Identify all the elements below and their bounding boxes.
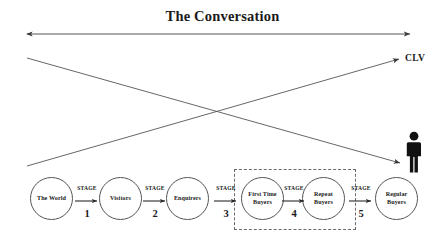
- node-regular-buyers[interactable]: Regular Buyers: [375, 177, 418, 220]
- page-title: The Conversation: [0, 8, 445, 25]
- stage-number: 5: [344, 208, 378, 219]
- stage-4: STAGE 4: [277, 185, 311, 219]
- node-visitors[interactable]: Visitors: [99, 177, 142, 220]
- node-label: First Time Buyers: [247, 191, 277, 206]
- stage-arrow-icon: [74, 198, 100, 205]
- stage-number: 4: [277, 208, 311, 219]
- node-label-line1: Repeat: [314, 191, 333, 197]
- node-label: Repeat Buyers: [313, 191, 334, 206]
- node-label-line2: Buyers: [387, 199, 406, 205]
- stage-word: STAGE: [209, 185, 243, 191]
- stage-word: STAGE: [277, 185, 311, 191]
- stage-arrow-icon: [142, 198, 168, 205]
- stage-number: 2: [138, 208, 172, 219]
- stage-arrow-icon: [281, 198, 307, 205]
- clv-label: CLV: [405, 53, 425, 63]
- stage-1: STAGE 1: [70, 185, 104, 219]
- stage-3: STAGE 3: [209, 185, 243, 219]
- node-label: Enquirers: [173, 195, 202, 202]
- node-label-line2: Buyers: [253, 199, 272, 205]
- person-icon: [403, 131, 425, 173]
- stage-arrow-icon: [348, 198, 374, 205]
- node-label: Regular Buyers: [385, 191, 409, 206]
- clv-ascending-arrow: [27, 59, 399, 166]
- node-label: Visitors: [109, 195, 132, 202]
- node-label-line1: First Time: [248, 191, 276, 197]
- conversation-funnel-diagram: The Conversation CLV The World Visitors …: [0, 0, 445, 239]
- stage-word: STAGE: [138, 185, 172, 191]
- stage-word: STAGE: [70, 185, 104, 191]
- node-the-world[interactable]: The World: [30, 177, 73, 220]
- node-label: The World: [36, 195, 67, 202]
- stage-number: 3: [209, 208, 243, 219]
- stage-number: 1: [70, 208, 104, 219]
- stage-5: STAGE 5: [344, 185, 378, 219]
- stage-word: STAGE: [344, 185, 378, 191]
- stage-2: STAGE 2: [138, 185, 172, 219]
- node-label-line2: Buyers: [314, 199, 333, 205]
- node-enquirers[interactable]: Enquirers: [166, 177, 209, 220]
- stage-arrow-icon: [213, 198, 239, 205]
- node-label-line1: Regular: [386, 191, 408, 197]
- customer-descending-arrow: [27, 58, 400, 163]
